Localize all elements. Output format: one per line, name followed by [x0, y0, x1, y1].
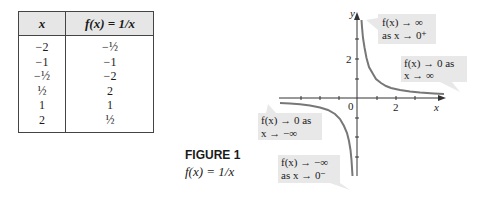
- callout-4-line1: f(x) → −∞: [281, 156, 328, 169]
- callout-1-line2: as x → 0⁺: [382, 29, 427, 41]
- reciprocal-graph: y x 0 2 2 f(x) → ∞ as x → 0⁺ f(x) → 0 as…: [0, 0, 481, 198]
- callout-3-line2: x → −∞: [261, 127, 297, 139]
- origin-label: 0: [348, 100, 354, 112]
- callout-3-line1: f(x) → 0 as: [261, 114, 311, 127]
- y-axis-arrow-icon: [354, 12, 360, 20]
- callout-4-line2: as x → 0⁻: [281, 169, 326, 181]
- callout-2-line2: x → ∞: [404, 69, 434, 81]
- y-tick-label: 2: [346, 53, 352, 65]
- x-tick-label: 2: [393, 101, 399, 113]
- x-axis-arrow-icon: [438, 95, 446, 101]
- callout-1-line1: f(x) → ∞: [382, 16, 423, 29]
- x-axis-label: x: [433, 101, 439, 113]
- y-axis-label: y: [349, 7, 355, 19]
